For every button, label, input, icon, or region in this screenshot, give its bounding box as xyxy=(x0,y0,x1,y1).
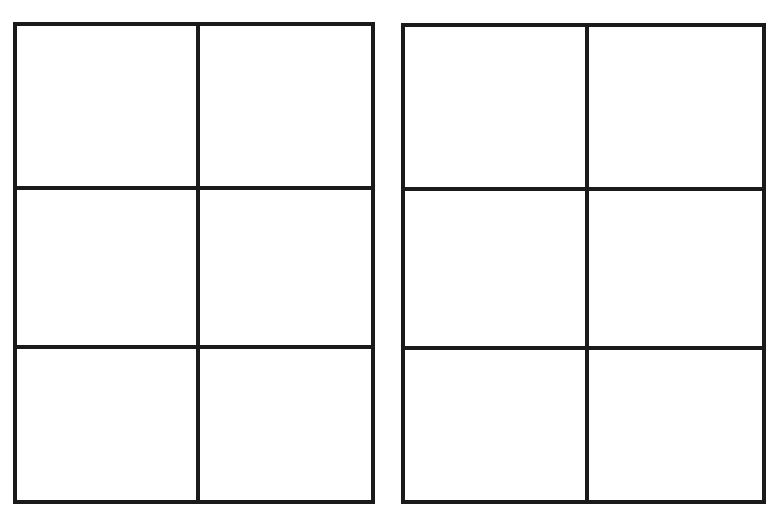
right-grid xyxy=(0,0,779,515)
grid-border-top xyxy=(401,23,766,27)
grid-border-bottom xyxy=(401,500,766,504)
grid-border-right xyxy=(762,23,766,504)
grid-border-left xyxy=(401,23,405,504)
grid-column-divider xyxy=(585,23,589,504)
grid-row-divider xyxy=(401,346,766,350)
grid-row-divider xyxy=(401,187,766,191)
